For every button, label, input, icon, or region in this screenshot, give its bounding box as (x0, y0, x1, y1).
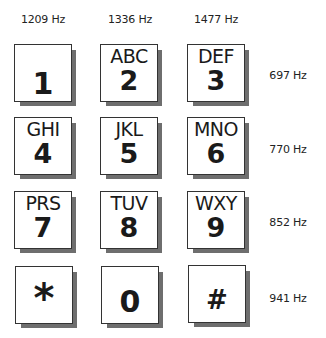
key-9[interactable]: WXY 9 (187, 191, 245, 249)
key-face: MNO 6 (187, 117, 245, 175)
key-letters: MNO (188, 118, 244, 140)
key-digit: 9 (188, 213, 244, 243)
key-letters: WXY (188, 192, 244, 214)
key-digit: 5 (101, 139, 157, 169)
key-digit: 2 (101, 66, 157, 96)
key-letters: DEF (188, 45, 244, 67)
key-digit: 6 (188, 139, 244, 169)
key-letters: JKL (101, 118, 157, 140)
row-frequency-label-852: 852 Hz (258, 216, 318, 229)
key-face: 1 (14, 44, 72, 102)
row-frequency-label-770: 770 Hz (258, 143, 318, 156)
row-frequency-label-941: 941 Hz (258, 292, 318, 305)
key-letters: TUV (101, 192, 157, 214)
key-digit: 1 (15, 67, 71, 101)
key-letters: GHI (15, 118, 71, 140)
key-3[interactable]: DEF 3 (187, 44, 245, 102)
key-6[interactable]: MNO 6 (187, 117, 245, 175)
key-face: WXY 9 (187, 191, 245, 249)
key-star[interactable]: * (15, 266, 73, 324)
key-2[interactable]: ABC 2 (100, 44, 158, 102)
key-face: GHI 4 (14, 117, 72, 175)
column-frequency-label-1209: 1209 Hz (3, 13, 83, 26)
key-face: JKL 5 (100, 117, 158, 175)
key-face: TUV 8 (100, 191, 158, 249)
key-digit: 4 (15, 139, 71, 169)
key-digit: # (189, 283, 245, 317)
key-face: DEF 3 (187, 44, 245, 102)
key-digit: * (16, 281, 72, 315)
key-face: * (15, 266, 73, 324)
key-5[interactable]: JKL 5 (100, 117, 158, 175)
key-8[interactable]: TUV 8 (100, 191, 158, 249)
key-digit: 8 (101, 213, 157, 243)
key-0[interactable]: 0 (101, 266, 159, 324)
key-digit: 7 (15, 213, 71, 243)
column-frequency-label-1477: 1477 Hz (176, 13, 256, 26)
key-7[interactable]: PRS 7 (14, 191, 72, 249)
key-face: ABC 2 (100, 44, 158, 102)
key-digit: 0 (102, 285, 158, 319)
key-face: PRS 7 (14, 191, 72, 249)
key-4[interactable]: GHI 4 (14, 117, 72, 175)
key-1[interactable]: 1 (14, 44, 72, 102)
key-face: 0 (101, 266, 159, 324)
key-letters: ABC (101, 45, 157, 67)
key-letters: PRS (15, 192, 71, 214)
key-face: # (188, 265, 246, 323)
column-frequency-label-1336: 1336 Hz (90, 13, 170, 26)
row-frequency-label-697: 697 Hz (258, 69, 318, 82)
key-digit: 3 (188, 66, 244, 96)
key-hash[interactable]: # (188, 265, 246, 323)
